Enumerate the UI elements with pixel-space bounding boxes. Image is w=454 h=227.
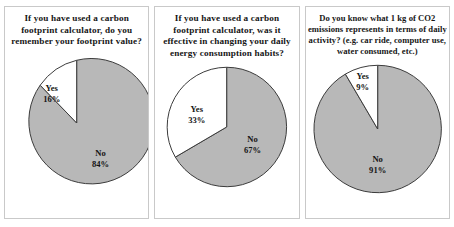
chart-panel-calculator-effectiveness: If you have used a carbon footprint calc… [154,6,299,219]
pie-chart-container: Yes 16% No 84% [5,48,148,218]
pie-chart-container: Yes 33% No 67% [155,59,298,218]
pie-chart-3: Yes 9% No 91% [306,57,449,197]
pie-label-yes-name: Yes [191,104,204,114]
panel-title: Do you know what 1 kg of CO2 emissions r… [306,7,449,57]
pie-label-yes-pct: 9% [356,82,369,92]
panel-title: If you have used a carbon footprint calc… [155,7,298,59]
chart-panel-co2-knowledge: Do you know what 1 kg of CO2 emissions r… [305,6,450,219]
pie-label-no-name: No [248,134,258,144]
chart-panel-footprint-value: If you have used a carbon footprint calc… [4,6,149,219]
pie-label-no-pct: 84% [92,159,109,169]
pie-label-no-pct: 67% [244,145,261,155]
pie-chart-2: Yes 33% No 67% [155,59,298,191]
pie-label-yes-name: Yes [46,83,59,93]
pie-chart-1: Yes 16% No 84% [5,48,148,188]
pie-label-no-name: No [372,154,382,164]
pie-label-no-name: No [95,148,105,158]
pie-label-yes-pct: 16% [43,94,60,104]
panel-title: If you have used a carbon footprint calc… [5,7,148,48]
pie-label-no-pct: 91% [369,165,386,175]
survey-pie-chart-figure: If you have used a carbon footprint calc… [0,0,454,227]
pie-label-yes-pct: 33% [189,115,206,125]
pie-label-yes-name: Yes [356,71,369,81]
pie-chart-container: Yes 9% No 91% [306,57,449,218]
